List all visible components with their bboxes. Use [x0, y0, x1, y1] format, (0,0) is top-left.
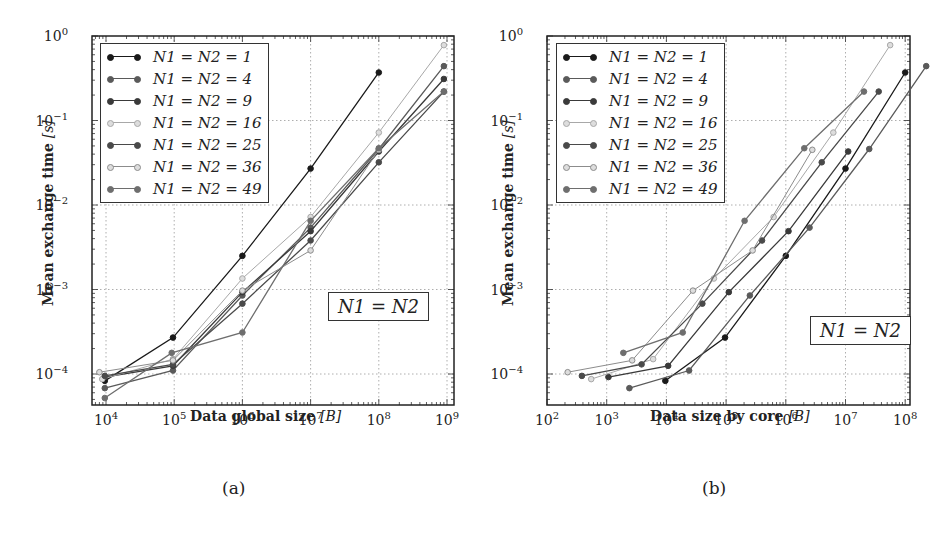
data-point [923, 63, 929, 69]
legend-marker-icon [563, 52, 597, 62]
data-point [170, 358, 176, 364]
data-point [621, 350, 627, 356]
data-point [376, 130, 382, 136]
data-point [579, 373, 585, 379]
legend-label: N1 = N2 = 49 [153, 180, 262, 198]
data-point [441, 89, 447, 95]
legend-b: N1 = N2 = 1N1 = N2 = 4N1 = N2 = 9N1 = N2… [556, 43, 725, 203]
data-point [861, 89, 867, 95]
legend-item: N1 = N2 = 25 [107, 134, 262, 156]
x-axis-label-b: Data size by core [B] [650, 408, 810, 424]
legend-marker-icon [563, 184, 597, 194]
legend-marker-icon [107, 96, 141, 106]
legend-item: N1 = N2 = 16 [107, 112, 262, 134]
x-tick-label: 107 [833, 410, 857, 428]
data-point [663, 378, 669, 384]
legend-marker-icon [563, 118, 597, 128]
legend-marker-icon [107, 140, 141, 150]
data-point [376, 70, 382, 76]
legend-marker-icon [563, 140, 597, 150]
legend-label: N1 = N2 = 36 [153, 158, 262, 176]
x-axis-label-a: Data global size [B] [190, 408, 341, 424]
data-point [308, 218, 314, 224]
data-point [441, 42, 447, 48]
data-point [866, 146, 872, 152]
legend-label: N1 = N2 = 9 [609, 92, 708, 110]
legend-a: N1 = N2 = 1N1 = N2 = 4N1 = N2 = 9N1 = N2… [100, 43, 269, 203]
data-point [807, 225, 813, 231]
data-point [308, 228, 314, 234]
data-point [240, 276, 246, 282]
legend-marker-icon [563, 162, 597, 172]
data-point [801, 145, 807, 151]
data-point [876, 89, 882, 95]
legend-item: N1 = N2 = 16 [563, 112, 718, 134]
legend-item: N1 = N2 = 49 [107, 178, 262, 200]
data-point [786, 228, 792, 234]
legend-label: N1 = N2 = 25 [609, 136, 718, 154]
data-point [831, 130, 837, 136]
x-axis-label-text: Data size by core [650, 408, 784, 424]
caption-b: (b) [702, 478, 726, 498]
y-axis-label-text: Mean exchange time [500, 143, 516, 306]
legend-label: N1 = N2 = 36 [609, 158, 718, 176]
y-axis-label-a: Mean exchange time [s] [40, 120, 56, 306]
y-axis-unit: [s] [40, 120, 56, 138]
y-tick-label: 10−4 [490, 364, 523, 382]
data-point [102, 385, 108, 391]
data-point [627, 385, 633, 391]
caption-a: (a) [222, 478, 245, 498]
legend-label: N1 = N2 = 25 [153, 136, 262, 154]
data-point [102, 373, 108, 379]
data-point [308, 166, 314, 172]
legend-marker-icon [107, 74, 141, 84]
data-point [308, 248, 314, 254]
data-point [565, 369, 571, 375]
x-axis-label-text: Data global size [190, 408, 315, 424]
annotation-a: N1 = N2 [328, 292, 429, 321]
chart-panel-b: 10210310410510610710810−410−310−210−1100… [472, 0, 944, 537]
x-axis-unit: [B] [320, 408, 341, 424]
x-tick-label: 108 [893, 410, 917, 428]
data-point [902, 70, 908, 76]
data-point [722, 335, 728, 341]
data-point [606, 374, 612, 380]
legend-marker-icon [563, 96, 597, 106]
legend-label: N1 = N2 = 4 [153, 70, 252, 88]
data-point [843, 166, 849, 172]
x-axis-unit: [B] [788, 408, 809, 424]
legend-marker-icon [563, 74, 597, 84]
x-tick-label: 103 [595, 410, 619, 428]
legend-item: N1 = N2 = 36 [107, 156, 262, 178]
data-point [97, 369, 103, 375]
data-point [376, 145, 382, 151]
data-point [240, 330, 246, 336]
legend-label: N1 = N2 = 49 [609, 180, 718, 198]
legend-item: N1 = N2 = 1 [563, 46, 718, 68]
legend-item: N1 = N2 = 25 [563, 134, 718, 156]
legend-label: N1 = N2 = 4 [609, 70, 708, 88]
legend-marker-icon [107, 52, 141, 62]
legend-label: N1 = N2 = 16 [153, 114, 262, 132]
legend-item: N1 = N2 = 36 [563, 156, 718, 178]
data-point [726, 289, 732, 295]
legend-label: N1 = N2 = 9 [153, 92, 252, 110]
y-axis-label-text: Mean exchange time [40, 143, 56, 306]
data-point [102, 395, 108, 401]
legend-label: N1 = N2 = 1 [609, 48, 708, 66]
legend-marker-icon [107, 118, 141, 128]
y-axis-unit: [s] [500, 120, 516, 138]
legend-marker-icon [107, 184, 141, 194]
data-point [747, 293, 753, 299]
legend-marker-icon [107, 162, 141, 172]
data-point [240, 288, 246, 294]
y-axis-label-b: Mean exchange time [s] [500, 120, 516, 306]
data-point [680, 330, 686, 336]
data-point [170, 335, 176, 341]
chart-panel-a: 10410510610710810910−410−310−210−1100 Me… [0, 0, 472, 537]
data-point [750, 248, 756, 254]
data-point [686, 368, 692, 374]
data-point [588, 376, 594, 382]
legend-item: N1 = N2 = 4 [107, 68, 262, 90]
x-tick-label: 102 [535, 410, 559, 428]
